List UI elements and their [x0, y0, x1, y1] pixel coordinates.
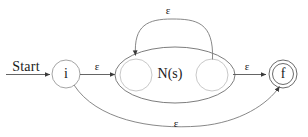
- subnfa-label: N(s): [158, 67, 183, 81]
- edge-loopback-arc: [135, 19, 212, 60]
- subnfa-inner-start-circle: [120, 59, 152, 91]
- edge-label-initial-to-subnfa: ε: [95, 61, 100, 72]
- nfa-diagram-canvas: Start i N(s) f ε ε ε ε: [0, 0, 308, 137]
- diagram-svg: [0, 0, 308, 137]
- edge-label-bypass: ε: [174, 118, 179, 129]
- state-final-label: f: [281, 67, 286, 81]
- start-label: Start: [12, 60, 39, 74]
- state-initial-label: i: [64, 67, 68, 81]
- edge-label-subnfa-to-final: ε: [245, 61, 250, 72]
- edge-label-loopback: ε: [166, 5, 171, 16]
- subnfa-inner-end-circle: [196, 59, 228, 91]
